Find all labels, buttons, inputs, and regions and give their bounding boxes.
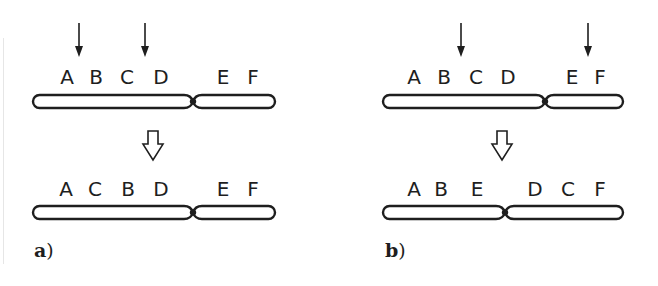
panel-letter: a [34, 239, 46, 261]
centromere [542, 99, 548, 105]
chromosome [33, 95, 275, 108]
centromere [190, 99, 196, 105]
chromosome-arm-left [33, 206, 193, 219]
gene-label: F [594, 65, 606, 89]
gene-label: C [120, 65, 134, 89]
gene-label: B [121, 177, 135, 201]
gene-label: C [88, 177, 102, 201]
centromere [502, 210, 508, 216]
chromosome [383, 206, 623, 219]
gene-label: B [434, 177, 448, 201]
gene-label: F [247, 65, 259, 89]
chromosome [33, 206, 275, 219]
panel-a-paracentric-inversion: ABCDEFACBDEFa) [33, 23, 275, 261]
chromosome-arm-left [383, 95, 545, 108]
panel-label: a) [34, 239, 54, 261]
centromere [190, 210, 196, 216]
gene-label: A [407, 177, 421, 201]
chromosome-arm-right [193, 206, 275, 219]
chromosome [383, 95, 623, 108]
chromosome-inversion-diagram: ABCDEFACBDEFa) ABCDEFABEDCFb) [0, 0, 658, 286]
gene-label: B [89, 65, 103, 89]
panel-label: b) [385, 239, 406, 261]
gene-label: A [60, 65, 74, 89]
chromosome-arm-left [33, 95, 193, 108]
transition-arrow-icon [143, 131, 163, 160]
chromosome-arm-right [545, 95, 623, 108]
gene-label: F [247, 177, 259, 201]
gene-label: D [527, 177, 542, 201]
panel-paren: ) [398, 239, 405, 261]
chromosome-arm-right [505, 206, 623, 219]
panel-b-pericentric-inversion: ABCDEFABEDCFb) [383, 23, 623, 261]
panel-letter: b [385, 239, 398, 261]
gene-label: A [59, 177, 73, 201]
gene-label: C [561, 177, 575, 201]
breakpoint-arrow-icon [584, 23, 592, 57]
breakpoint-arrow-icon [457, 23, 465, 57]
gene-label: C [469, 65, 483, 89]
breakpoint-arrow-icon [75, 23, 83, 57]
gene-label: F [594, 177, 606, 201]
gene-label: E [217, 177, 230, 201]
gene-label: E [566, 65, 579, 89]
gene-label: D [153, 177, 168, 201]
transition-arrow-icon [492, 131, 512, 160]
panel-paren: ) [46, 239, 53, 261]
chromosome-arm-left [383, 206, 505, 219]
breakpoint-arrow-icon [141, 23, 149, 57]
gene-label: D [500, 65, 515, 89]
gene-label: E [217, 65, 230, 89]
gene-label: A [407, 65, 421, 89]
gene-label: B [437, 65, 451, 89]
gene-label: D [153, 65, 168, 89]
gene-label: E [471, 177, 484, 201]
chromosome-arm-right [193, 95, 275, 108]
